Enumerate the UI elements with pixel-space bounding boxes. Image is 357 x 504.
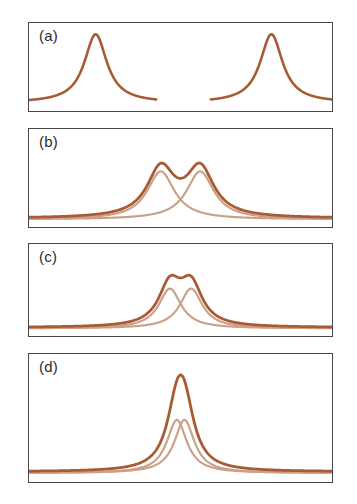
figure-root: (a) (b) (c) (d) — [0, 0, 357, 504]
plot-b — [29, 129, 332, 227]
panel-c: (c) — [28, 243, 333, 337]
panel-b: (b) — [28, 128, 333, 228]
panel-label-d: (d) — [39, 358, 58, 375]
panel-label-b: (b) — [39, 133, 58, 150]
panel-label-c: (c) — [39, 248, 57, 265]
plot-c — [29, 244, 332, 336]
plot-a — [29, 23, 332, 111]
panel-d: (d) — [28, 353, 333, 483]
plot-d — [29, 354, 332, 482]
panel-a: (a) — [28, 22, 333, 112]
panel-label-a: (a) — [39, 27, 58, 44]
